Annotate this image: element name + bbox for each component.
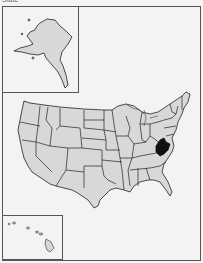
hawaii-inset-frame — [3, 216, 63, 260]
hawaii-state — [8, 222, 54, 252]
us-map — [0, 0, 203, 263]
alaska-state — [14, 19, 72, 88]
